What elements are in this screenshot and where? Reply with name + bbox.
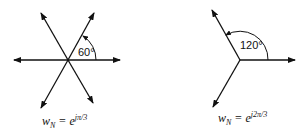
sixth-roots-diagram: 60° wN = ejπ/3 bbox=[14, 13, 120, 130]
angle-label-120: 120° bbox=[240, 39, 263, 51]
arrow-300deg bbox=[68, 60, 93, 103]
equation-right: wN = ej2π/3 bbox=[218, 110, 267, 127]
equation-left: wN = ejπ/3 bbox=[42, 113, 87, 130]
arrow-120deg bbox=[41, 13, 68, 60]
cube-roots-diagram: 120° wN = ej2π/3 bbox=[212, 10, 295, 127]
angle-label-60: 60° bbox=[78, 46, 95, 58]
roots-of-unity-figure: 60° wN = ejπ/3 120° wN = ej2π/3 bbox=[0, 0, 305, 135]
arrow-240deg bbox=[41, 60, 68, 108]
arrow-240deg bbox=[213, 60, 240, 107]
